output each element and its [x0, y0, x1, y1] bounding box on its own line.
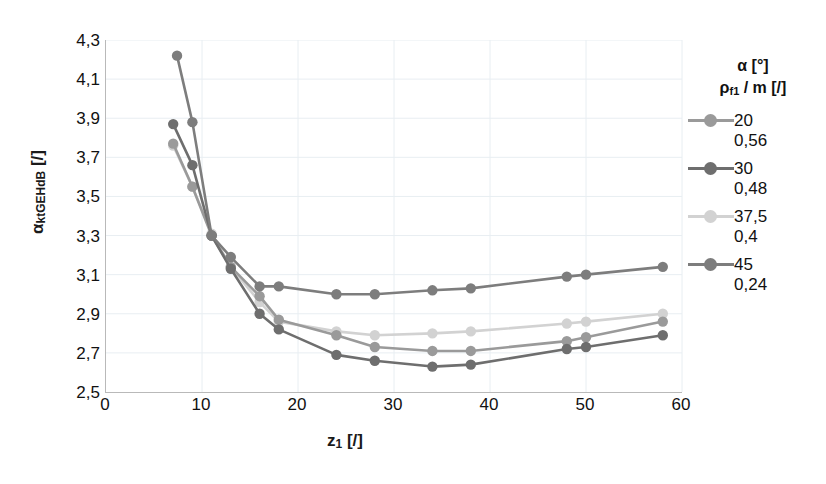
y-tick-label: 3,1 — [48, 267, 100, 284]
x-tick-label: 0 — [85, 396, 125, 413]
legend-marker-icon — [688, 161, 734, 175]
data-point — [562, 271, 572, 281]
data-point — [427, 285, 437, 295]
data-point — [168, 138, 178, 148]
data-point — [466, 283, 476, 293]
legend-dot — [704, 210, 717, 223]
x-axis-title-unit: [/] — [342, 431, 363, 450]
data-point — [466, 326, 476, 336]
legend-entries: 200,56300,4837,50,4450,24 — [688, 111, 818, 294]
data-point — [168, 119, 178, 129]
x-tick-label: 50 — [565, 396, 605, 413]
y-tick-label: 4,1 — [48, 71, 100, 88]
series-line — [173, 146, 663, 336]
data-point — [427, 361, 437, 371]
chart-container: αktGEHdB [/] 2,52,72,93,13,33,53,73,94,1… — [0, 0, 826, 484]
legend-marker-icon — [688, 113, 734, 127]
legend-entry[interactable]: 20 — [688, 111, 818, 129]
data-point — [427, 328, 437, 338]
legend-title-rho-rest: / m [/] — [739, 79, 786, 96]
data-point — [331, 289, 341, 299]
legend-alpha-value: 30 — [734, 160, 753, 177]
data-point — [331, 350, 341, 360]
legend-alpha-value: 37,5 — [734, 208, 767, 225]
legend-title-rho-symbol: ρ — [720, 79, 730, 96]
data-point — [581, 269, 591, 279]
x-tick-label: 40 — [469, 396, 509, 413]
legend-alpha-value: 45 — [734, 256, 753, 273]
legend-entry[interactable]: 37,5 — [688, 207, 818, 225]
data-point — [466, 346, 476, 356]
y-tick-label: 3,5 — [48, 188, 100, 205]
y-tick-label: 2,7 — [48, 345, 100, 362]
x-axis-title-symbol: z — [327, 431, 336, 450]
grid-lines — [106, 40, 682, 392]
series-20 — [168, 138, 668, 356]
data-point — [427, 346, 437, 356]
data-point — [581, 342, 591, 352]
legend-rho-value: 0,4 — [734, 227, 818, 246]
data-point — [254, 309, 264, 319]
data-point — [466, 359, 476, 369]
x-axis-title: z1 [/] — [105, 431, 585, 451]
x-tick-label: 60 — [661, 396, 701, 413]
data-point — [370, 356, 380, 366]
legend-dot — [704, 258, 717, 271]
legend-dot — [704, 114, 717, 127]
legend-rho-value: 0,56 — [734, 131, 818, 150]
legend-rho-value: 0,24 — [734, 275, 818, 294]
data-point — [187, 117, 197, 127]
y-tick-label: 3,9 — [48, 110, 100, 127]
legend-marker-icon — [688, 209, 734, 223]
series-37,5 — [168, 140, 668, 340]
chart-legend: α [°] ρf1 / m [/] 200,56300,4837,50,4450… — [688, 55, 818, 294]
y-tick-label: 3,3 — [48, 228, 100, 245]
data-point — [274, 281, 284, 291]
x-tick-label: 20 — [277, 396, 317, 413]
data-point — [206, 230, 216, 240]
data-point — [581, 316, 591, 326]
data-point — [331, 330, 341, 340]
x-tick-label: 10 — [181, 396, 221, 413]
legend-entry[interactable]: 30 — [688, 159, 818, 177]
data-point — [370, 342, 380, 352]
data-point — [254, 281, 264, 291]
data-point — [274, 324, 284, 334]
plot-svg — [106, 40, 684, 394]
data-point — [581, 332, 591, 342]
data-point — [187, 160, 197, 170]
legend-title-rho: ρf1 / m [/] — [688, 77, 818, 102]
legend-alpha-value: 20 — [734, 112, 753, 129]
data-point — [370, 330, 380, 340]
data-point — [370, 289, 380, 299]
legend-dot — [704, 162, 717, 175]
data-point — [562, 344, 572, 354]
data-point — [172, 50, 182, 60]
data-point — [562, 318, 572, 328]
x-tick-label: 30 — [373, 396, 413, 413]
series-45 — [172, 50, 668, 299]
series-line — [173, 124, 663, 366]
legend-marker-icon — [688, 257, 734, 271]
legend-rho-value: 0,48 — [734, 179, 818, 198]
legend-title-alpha: α [°] — [688, 55, 818, 77]
data-point — [254, 291, 264, 301]
data-point — [658, 262, 668, 272]
data-point — [274, 314, 284, 324]
data-point — [658, 316, 668, 326]
plot-area — [105, 40, 682, 393]
data-point — [658, 330, 668, 340]
y-tick-label: 4,3 — [48, 32, 100, 49]
data-point — [226, 252, 236, 262]
legend-title-rho-subscript: f1 — [730, 85, 740, 97]
legend-entry[interactable]: 45 — [688, 255, 818, 273]
series-line — [177, 56, 663, 295]
y-tick-label: 2,9 — [48, 306, 100, 323]
y-tick-label: 3,7 — [48, 149, 100, 166]
data-point — [226, 264, 236, 274]
